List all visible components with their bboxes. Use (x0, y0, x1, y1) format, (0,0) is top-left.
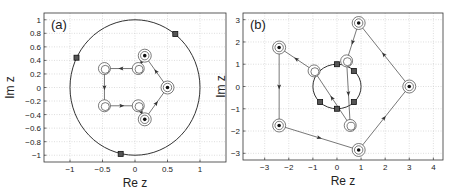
y-tick-label: 1 (37, 16, 42, 25)
x-tick-label: −0.5 (95, 165, 111, 174)
y-tick-label: 0.2 (30, 70, 42, 79)
target-dot (166, 86, 170, 90)
square-marker (351, 100, 356, 105)
x-tick-label: −1 (65, 165, 75, 174)
arrow-icon (329, 95, 335, 101)
x-tick-label: 0 (335, 163, 340, 172)
open-circle-marker (341, 55, 353, 67)
arrow-icon (316, 135, 322, 140)
open-circle-marker (308, 65, 320, 77)
x-tick-label: 4 (431, 163, 436, 172)
y-tick-label: −0.8 (25, 138, 41, 147)
x-tick-label: 2 (383, 163, 388, 172)
panel-a: −1−0.500.51−1−0.8−0.6−0.4−0.200.20.40.60… (3, 13, 226, 190)
square-marker (74, 55, 79, 60)
square-marker (118, 151, 123, 156)
x-tick-label: −2 (284, 163, 294, 172)
target-dot (407, 85, 411, 89)
x-axis-label: Re z (331, 174, 356, 188)
y-tick-label: −1 (32, 151, 42, 160)
open-circle-marker (132, 63, 144, 75)
y-tick-label: −2 (231, 127, 241, 136)
panel-b: −3−2−101234−3−2−10123Re zIm z(b) (214, 13, 443, 188)
x-tick-label: 1 (359, 163, 364, 172)
panel-label: (a) (51, 17, 67, 32)
y-tick-label: 0.6 (30, 43, 42, 52)
x-tick-label: 0.5 (162, 165, 174, 174)
y-tick-label: 0.4 (30, 56, 42, 65)
target-dot (277, 124, 281, 128)
x-tick-label: −3 (260, 163, 270, 172)
x-tick-label: 3 (407, 163, 412, 172)
target-dot (357, 21, 361, 25)
square-marker (351, 68, 356, 73)
y-tick-label: −0.6 (25, 124, 41, 133)
x-tick-label: 1 (198, 165, 203, 174)
open-circle-marker (98, 63, 110, 75)
y-tick-label: 0.8 (30, 29, 42, 38)
x-tick-label: −1 (308, 163, 318, 172)
square-marker (318, 100, 323, 105)
x-tick-label: 0 (133, 165, 138, 174)
y-axis-label: Im z (3, 76, 17, 99)
square-marker (334, 62, 339, 67)
x-axis-label: Re z (123, 176, 148, 190)
y-tick-label: 2 (236, 38, 241, 47)
y-tick-label: −1 (231, 105, 241, 114)
y-tick-label: 3 (236, 16, 241, 25)
figure: −1−0.500.51−1−0.8−0.6−0.4−0.200.20.40.60… (0, 0, 459, 192)
open-circle-marker (344, 119, 356, 131)
y-tick-label: 0 (236, 83, 241, 92)
open-circle-marker (98, 100, 110, 112)
y-tick-label: −3 (231, 149, 241, 158)
target-dot (143, 118, 147, 122)
panel-label: (b) (250, 17, 266, 32)
arrow-icon (153, 68, 159, 74)
arrow-icon (293, 56, 299, 62)
y-tick-label: 0 (37, 84, 42, 93)
target-dot (143, 54, 147, 58)
square-marker (173, 31, 178, 36)
square-marker (334, 106, 339, 111)
target-dot (277, 46, 281, 50)
open-circle-marker (132, 100, 144, 112)
arrow-icon (350, 39, 355, 45)
y-tick-label: −0.2 (25, 97, 41, 106)
y-tick-label: 1 (236, 60, 241, 69)
y-axis-label: Im z (214, 75, 228, 98)
y-tick-label: −0.4 (25, 111, 41, 120)
target-dot (357, 148, 361, 152)
